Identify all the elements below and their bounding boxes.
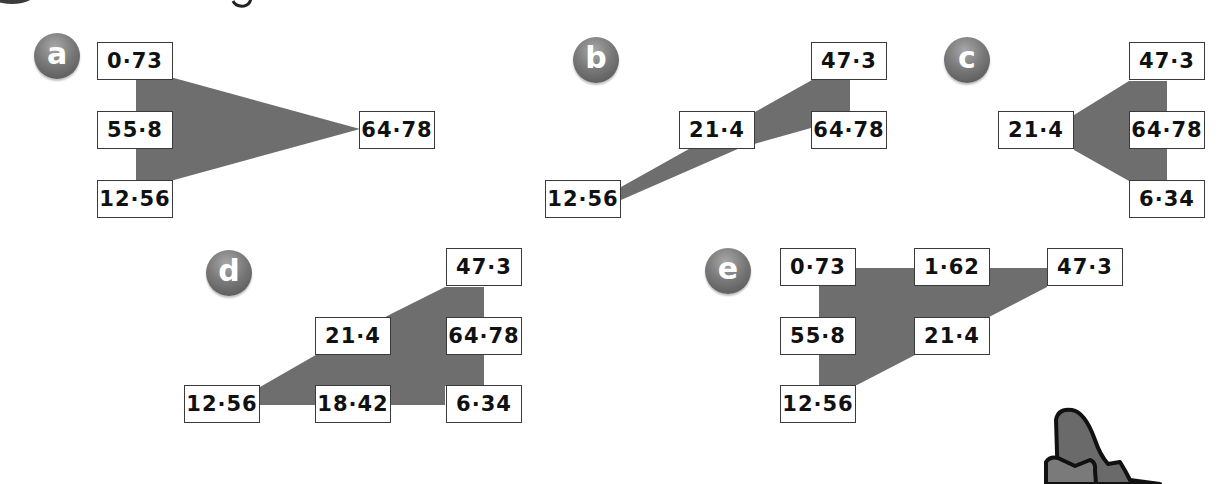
diagram-b-badge: b — [573, 37, 619, 83]
diagram-e-box-21-4: 21·4 — [914, 317, 990, 355]
diagram-d-box-64-78: 64·78 — [446, 317, 522, 355]
diagram-a-box-64-78: 64·78 — [359, 111, 435, 149]
diagram-e-box-55-8: 55·8 — [780, 317, 856, 355]
diagram-e-box-47-3: 47·3 — [1047, 248, 1123, 286]
diagram-d-box-21-4: 21·4 — [315, 317, 391, 355]
diagram-e-box-12-56: 12·56 — [780, 385, 856, 423]
worksheet-page: a 0·73 55·8 12·56 64·78 b 47·3 21·4 64·7… — [0, 0, 1229, 484]
diagram-b-label: b — [585, 43, 606, 73]
question-number-badge-fragment — [0, 0, 38, 4]
heading-text-fragment — [233, 0, 251, 6]
diagram-e-badge: e — [705, 248, 751, 294]
diagram-d-badge: d — [206, 250, 252, 296]
diagram-a-box-0-73: 0·73 — [97, 42, 173, 80]
diagram-b-box-47-3: 47·3 — [811, 42, 887, 80]
diagram-c-box-21-4: 21·4 — [998, 111, 1074, 149]
diagram-c-box-6-34: 6·34 — [1129, 180, 1205, 218]
diagram-d-box-6-34: 6·34 — [446, 385, 522, 423]
diagram-c-box-64-78: 64·78 — [1129, 111, 1205, 149]
diagram-d-box-12-56: 12·56 — [184, 385, 260, 423]
diagram-e-label: e — [718, 254, 738, 284]
diagram-d-label: d — [218, 256, 239, 286]
diagram-b-box-12-56: 12·56 — [545, 180, 621, 218]
diagram-c-label: c — [958, 43, 976, 73]
diagram-a-box-12-56: 12·56 — [97, 180, 173, 218]
diagram-d-box-47-3: 47·3 — [446, 248, 522, 286]
diagram-b-box-64-78: 64·78 — [811, 111, 887, 149]
diagram-c-box-47-3: 47·3 — [1129, 42, 1205, 80]
diagram-b-box-21-4: 21·4 — [679, 111, 755, 149]
diagram-e-box-1-62: 1·62 — [914, 248, 990, 286]
diagram-d-box-18-42: 18·42 — [315, 385, 391, 423]
diagram-a-badge: a — [34, 33, 80, 79]
diagram-a-label: a — [47, 39, 67, 69]
cartoon-character-icon — [1046, 410, 1160, 484]
diagram-c-badge: c — [944, 37, 990, 83]
diagram-a-box-55-8: 55·8 — [97, 111, 173, 149]
diagram-e-box-0-73: 0·73 — [780, 248, 856, 286]
